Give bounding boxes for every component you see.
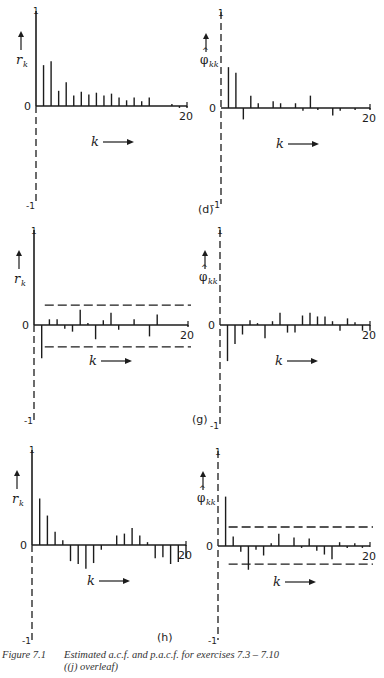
- y-tick-0: 0: [22, 319, 29, 332]
- caption-note: ((j) overleaf): [2, 661, 279, 673]
- x-tick-label-20: 20: [362, 112, 376, 125]
- y-tick-1: 1: [29, 445, 35, 455]
- chart-h-acf: 10-120rkk(h): [12, 445, 192, 646]
- x-tick-label-20: 20: [178, 549, 192, 562]
- y-tick-0: 0: [24, 100, 31, 113]
- figure-label: Figure 7.1: [2, 649, 64, 661]
- figure-7-1: 10-120rkk10-120φ^kkk(d)10-120rkk10-120φ^…: [0, 0, 384, 678]
- x-tick-label-20: 20: [179, 110, 193, 123]
- y-tick-neg1: -1: [22, 636, 31, 646]
- y-tick-neg1: -1: [210, 421, 219, 431]
- panel-label: (h): [157, 631, 173, 644]
- y-axis-label: r: [16, 52, 23, 67]
- y-tick-1: 1: [31, 226, 37, 236]
- y-tick-0: 0: [208, 319, 215, 332]
- x-axis-label: k: [276, 136, 284, 151]
- svg-text:k: k: [19, 499, 24, 508]
- y-tick-0: 0: [206, 540, 213, 553]
- y-axis-label: r: [12, 491, 19, 506]
- y-axis-label: r: [14, 271, 21, 286]
- svg-text:k: k: [21, 279, 26, 288]
- y-tick-neg1: -1: [208, 636, 217, 646]
- y-tick-1: 1: [218, 8, 224, 18]
- svg-text:^: ^: [202, 47, 209, 56]
- y-tick-neg1: -1: [26, 201, 35, 211]
- caption-text: Estimated a.c.f. and p.a.c.f. for exerci…: [64, 649, 279, 660]
- chart-d-pacf: 10-120φ^kkk(d): [198, 8, 376, 216]
- y-tick-1: 1: [33, 6, 39, 16]
- svg-text:kk: kk: [209, 60, 219, 69]
- x-tick-label-20: 20: [362, 550, 376, 563]
- x-axis-label: k: [87, 573, 95, 588]
- x-axis-label: k: [275, 353, 283, 368]
- chart-h-pacf: 10-120φ^kkk: [197, 447, 376, 646]
- y-tick-0: 0: [209, 102, 216, 115]
- chart-d-acf: 10-120rkk: [16, 6, 193, 211]
- chart-g-acf: 10-120rkk: [14, 226, 194, 426]
- x-tick-label-20: 20: [180, 329, 194, 342]
- panel-label: (g): [192, 413, 208, 426]
- figure-caption: Figure 7.1Estimated a.c.f. and p.a.c.f. …: [2, 649, 279, 673]
- y-tick-1: 1: [215, 447, 221, 457]
- svg-text:kk: kk: [208, 277, 218, 286]
- x-tick-label-20: 20: [362, 329, 376, 342]
- y-tick-neg1: -1: [24, 416, 33, 426]
- svg-text:kk: kk: [206, 498, 216, 507]
- y-tick-1: 1: [217, 226, 223, 236]
- panel-label: (d): [198, 203, 214, 216]
- x-axis-label: k: [91, 134, 99, 149]
- svg-text:^: ^: [201, 264, 208, 273]
- svg-text:k: k: [23, 60, 28, 69]
- svg-text:^: ^: [199, 485, 206, 494]
- x-axis-label: k: [273, 574, 281, 589]
- x-axis-label: k: [89, 353, 97, 368]
- y-tick-0: 0: [20, 539, 27, 552]
- chart-g-pacf: 10-120φ^kkk(g): [192, 226, 376, 431]
